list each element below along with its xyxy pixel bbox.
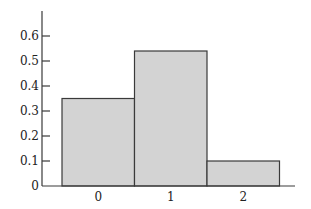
y-tick-label: 0.4 [20,79,39,93]
y-axis-ticks: 00.10.20.30.40.50.6 [20,29,50,193]
histogram-chart: 00.10.20.30.40.50.6 012 [0,0,311,209]
x-tick-label: 0 [94,190,102,204]
y-tick-label: 0 [31,179,39,193]
y-tick-label: 0.1 [20,154,39,168]
bars-group [62,51,280,186]
x-tick-label: 1 [167,190,175,204]
y-tick-label: 0.3 [20,104,39,118]
bar-1 [135,51,208,186]
y-tick-label: 0.6 [20,29,39,43]
bar-2 [207,161,280,186]
x-tick-label: 2 [239,190,247,204]
bar-0 [62,99,135,187]
x-axis-labels: 012 [94,190,247,204]
y-tick-label: 0.5 [20,54,39,68]
y-tick-label: 0.2 [20,129,39,143]
